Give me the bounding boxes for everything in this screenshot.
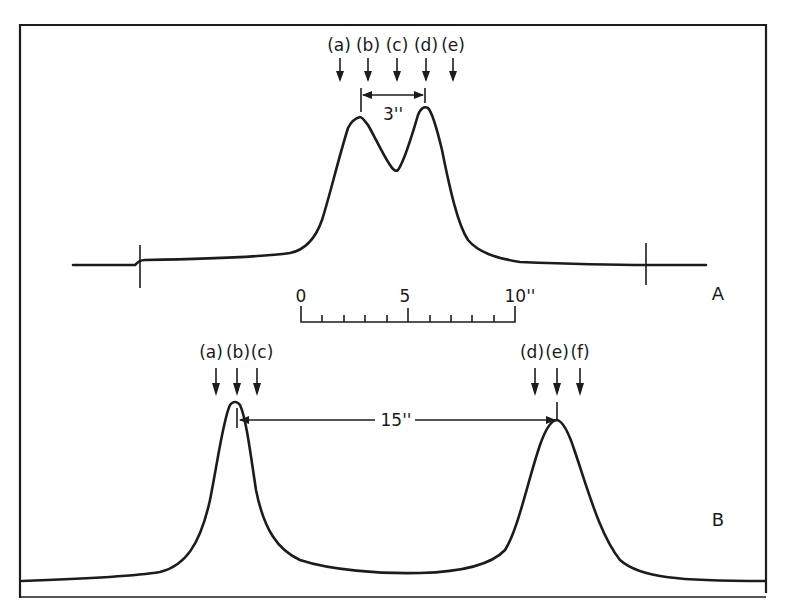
arrow-label-d: (d) — [520, 342, 544, 362]
scale-bar: 0 5 10'' — [296, 286, 536, 322]
scale-label-0: 0 — [296, 286, 307, 306]
panel-a: (a) (b) (c) (d) (e) 3'' A — [73, 35, 725, 304]
panel-b-down-arrows-icon — [212, 368, 584, 396]
panel-b-separation-bracket: 15'' — [237, 402, 557, 430]
arrow-label-c: (c) — [386, 35, 409, 55]
arrow-label-e: (e) — [441, 35, 465, 55]
scale-minor-ticks — [322, 308, 494, 322]
scale-label-10: 10'' — [505, 286, 536, 306]
panel-a-profile-curve — [73, 107, 706, 265]
scale-label-5: 5 — [400, 286, 411, 306]
profile-figure: (a) (b) (c) (d) (e) 3'' A 0 5 10' — [0, 0, 786, 610]
panel-b-label: B — [712, 509, 724, 530]
arrow-label-d: (d) — [414, 35, 438, 55]
panel-a-down-arrows-icon — [336, 58, 457, 82]
figure-canvas: (a) (b) (c) (d) (e) 3'' A 0 5 10' — [0, 0, 786, 610]
panel-a-arrow-labels: (a) (b) (c) (d) (e) — [327, 35, 465, 55]
panel-a-separation-bracket: 3'' — [361, 88, 425, 124]
arrow-label-c: (c) — [251, 342, 274, 362]
separation-label-3arcsec: 3'' — [383, 104, 403, 124]
arrow-label-a: (a) — [199, 342, 223, 362]
arrow-label-b: (b) — [356, 35, 380, 55]
separation-label-15arcsec: 15'' — [381, 410, 412, 430]
arrow-label-e: (e) — [545, 342, 569, 362]
panel-b-arrow-labels-right: (d) (e) (f) — [520, 342, 590, 362]
arrow-label-f: (f) — [570, 342, 589, 362]
panel-b-arrow-labels-left: (a) (b) (c) — [199, 342, 273, 362]
arrow-label-a: (a) — [327, 35, 351, 55]
arrow-label-b: (b) — [226, 342, 250, 362]
panel-a-label: A — [712, 283, 725, 304]
panel-b: (a) (b) (c) (d) (e) (f) 15'' B — [22, 342, 765, 581]
